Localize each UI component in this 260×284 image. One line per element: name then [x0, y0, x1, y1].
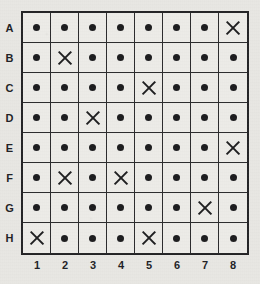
grid-cell-d6[interactable] [163, 103, 191, 133]
grid-cell-e2[interactable] [51, 133, 79, 163]
grid-cell-b1[interactable] [23, 43, 51, 73]
grid-cell-a3[interactable] [79, 13, 107, 43]
grid-cell-c5[interactable] [135, 73, 163, 103]
grid-cell-h6[interactable] [163, 223, 191, 253]
row-label-g: G [0, 193, 19, 223]
row-label-a: A [0, 13, 19, 43]
grid-cell-a7[interactable] [191, 13, 219, 43]
grid-cell-d3[interactable] [79, 103, 107, 133]
grid-cell-b5[interactable] [135, 43, 163, 73]
dot-icon [230, 114, 237, 121]
grid-cell-f7[interactable] [191, 163, 219, 193]
cross-icon [140, 229, 158, 247]
row-label-d: D [0, 103, 19, 133]
dot-icon [89, 84, 96, 91]
grid-cell-b6[interactable] [163, 43, 191, 73]
grid-cell-c4[interactable] [107, 73, 135, 103]
dot-icon [230, 174, 237, 181]
grid-cell-g3[interactable] [79, 193, 107, 223]
grid-cell-c1[interactable] [23, 73, 51, 103]
column-label-5: 5 [135, 256, 163, 274]
grid-cell-f6[interactable] [163, 163, 191, 193]
dot-icon [117, 204, 124, 211]
mark-grid[interactable] [21, 11, 249, 255]
grid-cell-a4[interactable] [107, 13, 135, 43]
dot-icon [173, 24, 180, 31]
column-label-3: 3 [79, 256, 107, 274]
grid-cell-g7[interactable] [191, 193, 219, 223]
grid-cell-e6[interactable] [163, 133, 191, 163]
grid-cell-f2[interactable] [51, 163, 79, 193]
grid-cell-d4[interactable] [107, 103, 135, 133]
dot-icon [173, 84, 180, 91]
grid-cell-d1[interactable] [23, 103, 51, 133]
cross-icon [224, 139, 242, 157]
dot-icon [173, 235, 180, 242]
cross-icon [28, 229, 46, 247]
grid-cell-g1[interactable] [23, 193, 51, 223]
dot-icon [173, 54, 180, 61]
grid-cell-e1[interactable] [23, 133, 51, 163]
grid-cell-f1[interactable] [23, 163, 51, 193]
grid-cell-c6[interactable] [163, 73, 191, 103]
dot-icon [145, 114, 152, 121]
grid-cell-g4[interactable] [107, 193, 135, 223]
grid-cell-h8[interactable] [219, 223, 247, 253]
dot-icon [61, 144, 68, 151]
grid-cell-a2[interactable] [51, 13, 79, 43]
grid-cell-e5[interactable] [135, 133, 163, 163]
grid-cell-g5[interactable] [135, 193, 163, 223]
grid-cell-e4[interactable] [107, 133, 135, 163]
grid-cell-f5[interactable] [135, 163, 163, 193]
grid-cell-g6[interactable] [163, 193, 191, 223]
grid-cell-g2[interactable] [51, 193, 79, 223]
grid-cell-c3[interactable] [79, 73, 107, 103]
grid-cell-d2[interactable] [51, 103, 79, 133]
grid-cell-d8[interactable] [219, 103, 247, 133]
dot-icon [33, 84, 40, 91]
grid-cell-h2[interactable] [51, 223, 79, 253]
grid-cell-d5[interactable] [135, 103, 163, 133]
cross-icon [140, 79, 158, 97]
grid-cell-e3[interactable] [79, 133, 107, 163]
grid-cell-b8[interactable] [219, 43, 247, 73]
grid-cell-b7[interactable] [191, 43, 219, 73]
dot-icon [61, 235, 68, 242]
grid-cell-b2[interactable] [51, 43, 79, 73]
dot-icon [89, 204, 96, 211]
grid-cell-f3[interactable] [79, 163, 107, 193]
grid-cell-c8[interactable] [219, 73, 247, 103]
grid-cell-a5[interactable] [135, 13, 163, 43]
cross-icon [56, 49, 74, 67]
grid-cell-f4[interactable] [107, 163, 135, 193]
grid-cell-h1[interactable] [23, 223, 51, 253]
grid-cell-a1[interactable] [23, 13, 51, 43]
grid-cell-h5[interactable] [135, 223, 163, 253]
grid-cell-h3[interactable] [79, 223, 107, 253]
grid-cell-a8[interactable] [219, 13, 247, 43]
dot-icon [201, 144, 208, 151]
grid-cell-b3[interactable] [79, 43, 107, 73]
grid-cell-d7[interactable] [191, 103, 219, 133]
column-label-7: 7 [191, 256, 219, 274]
dot-icon [173, 204, 180, 211]
dot-icon [61, 204, 68, 211]
grid-cell-h4[interactable] [107, 223, 135, 253]
dot-icon [173, 144, 180, 151]
cross-icon [112, 169, 130, 187]
grid-cell-a6[interactable] [163, 13, 191, 43]
grid-cell-f8[interactable] [219, 163, 247, 193]
dot-icon [61, 114, 68, 121]
cross-icon [224, 19, 242, 37]
grid-cell-e8[interactable] [219, 133, 247, 163]
grid-cell-g8[interactable] [219, 193, 247, 223]
grid-cell-e7[interactable] [191, 133, 219, 163]
dot-icon [230, 204, 237, 211]
grid-cell-b4[interactable] [107, 43, 135, 73]
grid-cell-c7[interactable] [191, 73, 219, 103]
dot-icon [117, 24, 124, 31]
grid-cell-c2[interactable] [51, 73, 79, 103]
dot-icon [230, 54, 237, 61]
grid-cell-h7[interactable] [191, 223, 219, 253]
row-label-b: B [0, 43, 19, 73]
